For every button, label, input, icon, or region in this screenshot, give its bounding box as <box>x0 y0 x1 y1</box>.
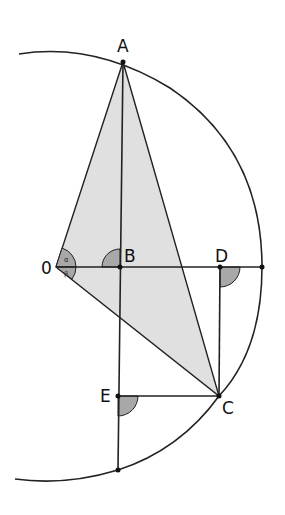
label-e: E <box>100 386 111 406</box>
point-b <box>118 265 123 270</box>
point-c <box>217 394 222 399</box>
geometry-diagram: α β A 0 B D E C <box>0 0 285 515</box>
line-dc <box>219 267 220 396</box>
point-e <box>116 394 121 399</box>
beta-label: β <box>64 270 68 278</box>
label-o: 0 <box>41 258 52 278</box>
point-bottom <box>116 468 121 473</box>
label-d: D <box>215 246 228 266</box>
alpha-label: α <box>64 256 69 264</box>
triangle-oac <box>56 62 219 396</box>
right-angle-d-marker <box>220 267 240 287</box>
label-a: A <box>117 36 129 56</box>
point-right-edge <box>260 265 265 270</box>
point-a <box>121 60 126 65</box>
label-c: C <box>222 398 234 418</box>
label-b: B <box>124 246 136 266</box>
right-angle-e-marker <box>118 396 138 416</box>
